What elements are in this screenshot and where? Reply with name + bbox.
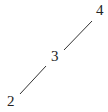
node-label-3: 3 [51, 49, 59, 64]
node-label-4: 4 [96, 3, 104, 18]
node-label-2: 2 [7, 94, 15, 109]
edge-2-3 [20, 66, 46, 94]
edge-3-4 [64, 21, 92, 50]
